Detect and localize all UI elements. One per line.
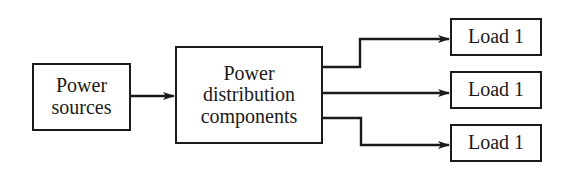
distribution-label-line-2: distribution bbox=[203, 84, 295, 106]
load-block-bottom: Load 1 bbox=[450, 124, 542, 162]
load-label: Load 1 bbox=[468, 79, 524, 101]
power-sources-label-line-2: sources bbox=[52, 97, 112, 119]
power-distribution-block: Power distribution components bbox=[175, 46, 323, 144]
distribution-label-line-3: components bbox=[201, 106, 298, 128]
load-block-middle: Load 1 bbox=[450, 71, 542, 109]
power-sources-block: Power sources bbox=[32, 63, 131, 131]
arrow-distribution-to-load-top bbox=[323, 39, 449, 67]
load-label: Load 1 bbox=[468, 132, 524, 154]
power-sources-label-line-1: Power bbox=[56, 75, 107, 97]
arrow-distribution-to-load-bottom bbox=[323, 118, 449, 145]
distribution-label-line-1: Power bbox=[223, 63, 274, 85]
load-label: Load 1 bbox=[468, 26, 524, 48]
load-block-top: Load 1 bbox=[450, 18, 542, 56]
